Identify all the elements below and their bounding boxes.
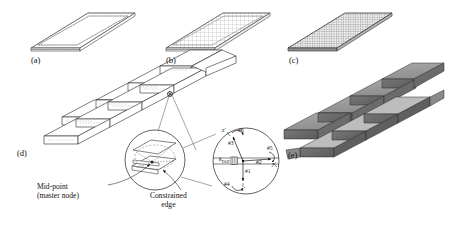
dof-label-2: #2 [256, 159, 262, 165]
spring-constant-label: kDOF [219, 156, 230, 164]
magnifier-leader-lines-2 [181, 134, 216, 186]
panel-label-e: (e) [288, 150, 297, 160]
axis-label-z: z' [222, 127, 225, 133]
master-node-dot [169, 93, 171, 95]
panel-b-plate [166, 13, 270, 51]
dof-label-3: #3 [228, 140, 234, 146]
panel-label-a: (a) [31, 55, 40, 65]
panel-c-plate [288, 13, 392, 51]
detail-circle-element [108, 130, 185, 190]
dof-label-4: #4 [224, 181, 230, 187]
panel-e-corrugated-shaded [284, 63, 444, 159]
dof-label-5: #5 [267, 145, 273, 151]
annotation-mid-point-line2: (master node) [37, 191, 79, 200]
panel-a-plate [31, 13, 135, 51]
panel-label-d: (d) [17, 148, 27, 158]
dof-label-6: #6 [238, 127, 244, 133]
annotation-constrained-edge-line1: Constrained [150, 191, 187, 200]
annotation-mid-point-master-node: Mid-point (master node) [37, 182, 79, 201]
annotation-constrained-edge-line2: edge [150, 200, 187, 209]
panel-label-c: (c) [289, 55, 298, 65]
spring-constant-subscript: DOF [222, 159, 230, 164]
annotation-constrained-edge: Constrained edge [150, 191, 187, 210]
dof-label-1: #1 [245, 168, 251, 174]
panel-label-b: (b) [166, 55, 176, 65]
axis-label-x: x' [241, 186, 245, 192]
panel-d-corrugated-wireframe [44, 50, 236, 144]
annotation-mid-point-line1: Mid-point [37, 182, 79, 191]
figure-multipanel-mesh-convergence: (a) (b) (c) (d) (e) Mid-point (master no… [0, 0, 452, 230]
axis-label-y: y' [272, 161, 276, 167]
